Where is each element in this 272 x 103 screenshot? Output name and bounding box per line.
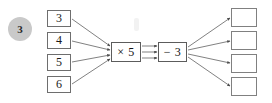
input-box-4: 6: [47, 76, 71, 93]
output-box-1[interactable]: [231, 8, 257, 27]
function-machine-worksheet: 3 3 4 5 6 × 5 − 3: [0, 0, 272, 103]
output-box-2[interactable]: [231, 31, 257, 50]
output-box-3[interactable]: [231, 54, 257, 73]
arrow-out-2: [188, 54, 230, 63]
paper-smudge: [134, 18, 139, 31]
operation-box-multiply: × 5: [111, 42, 141, 62]
input-box-1: 3: [47, 10, 71, 27]
output-box-4[interactable]: [231, 77, 257, 96]
arrow-in-1: [72, 41, 110, 50]
arrow-in-3: [72, 59, 110, 84]
input-box-3: 5: [47, 54, 71, 71]
question-number-badge: 3: [8, 17, 32, 41]
input-box-2: 4: [47, 32, 71, 49]
arrow-out-0: [188, 18, 230, 47]
arrow-in-0: [72, 19, 110, 46]
arrow-in-2: [72, 55, 110, 62]
operation-box-subtract: − 3: [158, 42, 187, 62]
arrow-out-3: [188, 57, 230, 86]
arrow-out-1: [188, 41, 230, 50]
